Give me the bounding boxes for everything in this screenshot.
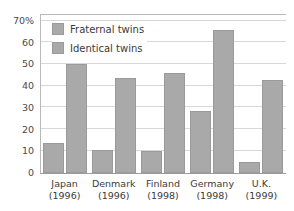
x-tick-country: Japan — [51, 178, 78, 189]
chart-legend: Fraternal twinsIdentical twins — [52, 22, 147, 55]
bar-group — [188, 14, 237, 173]
bar — [115, 78, 136, 172]
bar — [190, 111, 211, 173]
bar — [66, 64, 87, 173]
bar — [213, 30, 234, 172]
legend-swatch-icon — [52, 23, 64, 35]
bar — [43, 143, 64, 172]
y-tick-label: 10 — [0, 146, 34, 156]
x-tick-country: Finland — [146, 178, 180, 189]
x-tick-year: (1996) — [40, 190, 89, 202]
x-tick-year: (1996) — [89, 190, 138, 202]
y-tick-label: 50 — [0, 59, 34, 69]
bar-group — [237, 14, 286, 173]
bar — [239, 162, 260, 173]
y-tick-label: 20 — [0, 125, 34, 135]
x-tick-label: U.K.(1999) — [237, 178, 286, 202]
x-tick-country: Germany — [190, 178, 234, 189]
legend-swatch-icon — [52, 42, 64, 54]
y-tick-label: 60 — [0, 38, 34, 48]
x-axis: Japan(1996)Denmark(1996)Finland(1998)Ger… — [40, 178, 286, 210]
y-axis: 010203040506070% — [0, 14, 36, 174]
y-tick-label: 40 — [0, 81, 34, 91]
y-tick-label: 0 — [0, 168, 34, 178]
x-tick-year: (1998) — [138, 190, 187, 202]
x-tick-label: Japan(1996) — [40, 178, 89, 202]
y-tick-label: 30 — [0, 103, 34, 113]
bar — [262, 80, 283, 172]
legend-label: Identical twins — [70, 43, 143, 54]
twin-birth-rate-bar-chart: 010203040506070% Fraternal twinsIdentica… — [0, 0, 294, 211]
bar — [92, 150, 113, 173]
legend-item[interactable]: Identical twins — [52, 41, 147, 55]
x-tick-country: Denmark — [92, 178, 136, 189]
x-tick-year: (1998) — [188, 190, 237, 202]
legend-item[interactable]: Fraternal twins — [52, 22, 147, 36]
y-tick-label: 70% — [0, 16, 34, 26]
legend-label: Fraternal twins — [70, 24, 144, 35]
x-tick-label: Germany(1998) — [188, 178, 237, 202]
x-tick-label: Finland(1998) — [138, 178, 187, 202]
x-tick-country: U.K. — [252, 178, 271, 189]
bar — [141, 151, 162, 173]
bar — [164, 73, 185, 173]
x-tick-year: (1999) — [237, 190, 286, 202]
x-tick-label: Denmark(1996) — [89, 178, 138, 202]
